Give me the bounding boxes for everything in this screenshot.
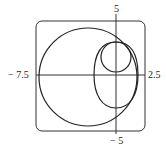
- y-min-label: − 5: [110, 136, 123, 146]
- x-max-label: 2.5: [148, 70, 161, 80]
- viewing-window-frame: [36, 21, 145, 131]
- y-max-label: 5: [114, 4, 119, 14]
- x-min-label: − 7.5: [8, 70, 29, 80]
